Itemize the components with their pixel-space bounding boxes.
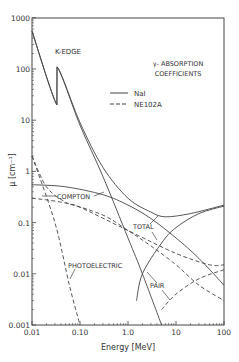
x-tick-label: 0.01 [24, 328, 41, 337]
annotation-pair: PAIR [150, 282, 165, 290]
y-tick-label: 0.01 [13, 270, 30, 279]
x-tick-label: 1.0 [122, 328, 134, 337]
curve-ne102a-photoelectric [32, 156, 80, 325]
legend-label-nai: NaI [134, 90, 146, 98]
annotation-photoelectric: PHOTOELECTRIC [68, 262, 123, 270]
y-tick-label: 1000 [11, 14, 30, 23]
curve-ne102a-total [32, 156, 224, 266]
legend-label-ne102a: NE102A [134, 101, 162, 109]
x-tick-label: 100 [217, 328, 232, 337]
annotation-total: TOTAL [132, 223, 154, 231]
x-tick-label: 0.10 [72, 328, 89, 337]
curve-nai-photoelectric [32, 31, 162, 325]
x-axis-label: Energy [MeV] [101, 343, 155, 352]
y-tick-label: 0.1 [18, 219, 30, 228]
legend: NaI NE102A [110, 90, 162, 109]
y-axis-label: μ [cm⁻¹] [8, 153, 17, 187]
annotation-compton: COMPTON [57, 193, 90, 201]
y-tick-label: 100 [16, 65, 31, 74]
x-tick-label: 10 [171, 328, 181, 337]
x-axis: 0.010.101.010100 [24, 321, 232, 337]
y-tick-label: 10 [20, 116, 30, 125]
chart-title-line1: γ- ABSORPTION [153, 60, 204, 68]
y-tick-label: 1 [25, 167, 30, 176]
chart-title-line2: COEFFICIENTS [155, 70, 202, 78]
curve-nai-total [32, 31, 224, 217]
curve-ne102a-pair [162, 270, 224, 310]
curve-ne102a-compton [32, 198, 224, 300]
absorption-chart: 0.0010.010.11101001000 0.010.101.010100 … [0, 0, 239, 362]
annotation-k-edge: K-EDGE [55, 48, 81, 56]
